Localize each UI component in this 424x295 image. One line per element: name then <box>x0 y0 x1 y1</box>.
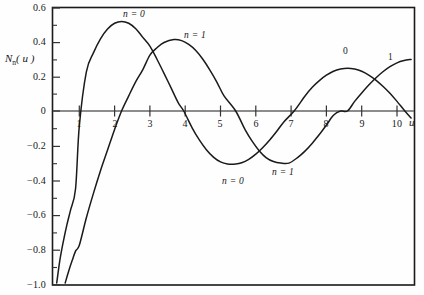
x-tick-label-6: 6 <box>246 119 266 129</box>
y-tick-label-0: 0.6 <box>2 3 46 13</box>
x-tick-label-7: 7 <box>281 119 301 129</box>
x-tick-label-3: 3 <box>140 119 160 129</box>
x-tick-label-1: 1 <box>69 119 89 129</box>
y-axis-label: Nn( u ) <box>5 53 34 67</box>
annotation-n1-first-peak: n = 1 <box>184 31 206 41</box>
bessel-neumann-chart-figure: 0.6 0.4 0.2 0 −0.2 −0.4 −0.6 −0.8 −1.0 1… <box>0 0 424 295</box>
y-tick-label-8: −1.0 <box>2 280 46 290</box>
curve-n1 <box>65 40 411 283</box>
y-tick-label-4: −0.2 <box>2 141 46 151</box>
y-tick-label-3: 0 <box>2 106 46 116</box>
y-major-ticks <box>53 8 61 285</box>
annotation-n1-trough: n = 1 <box>272 168 294 178</box>
y-tick-label-2: 0.2 <box>2 72 46 82</box>
x-tick-label-9: 9 <box>352 119 372 129</box>
annotation-n0-first-peak: n = 0 <box>123 10 145 20</box>
x-tick-label-5: 5 <box>210 119 230 129</box>
annotation-n1-second-peak: 1 <box>388 53 393 63</box>
y-axis-label-arg: ( u ) <box>16 52 34 64</box>
annotation-n0-trough: n = 0 <box>222 177 244 187</box>
y-tick-label-1: 0.4 <box>2 37 46 47</box>
x-tick-label-2: 2 <box>105 119 125 129</box>
y-tick-label-6: −0.6 <box>2 210 46 220</box>
curve-n0 <box>57 21 411 283</box>
x-tick-label-10: 10 <box>387 119 407 129</box>
x-axis-label: u <box>409 117 415 128</box>
annotation-n0-second-peak: 0 <box>343 47 348 57</box>
x-tick-label-4: 4 <box>175 119 195 129</box>
plot-canvas <box>0 0 424 295</box>
x-tick-label-8: 8 <box>316 119 336 129</box>
y-tick-label-5: −0.4 <box>2 176 46 186</box>
plot-frame <box>53 8 415 286</box>
y-tick-label-7: −0.8 <box>2 245 46 255</box>
